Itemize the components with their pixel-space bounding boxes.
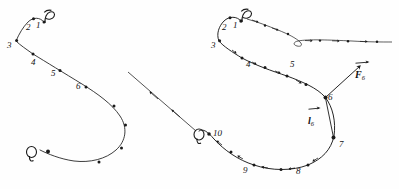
displacement-vector-subscript: 6 [311, 121, 314, 128]
left-curve-group [15, 10, 127, 163]
right-label-2: 2 [222, 23, 227, 32]
left-label-4: 4 [31, 58, 36, 67]
left-curve-path [16, 18, 125, 161]
right-label-9: 9 [243, 166, 248, 175]
right-label-5: 5 [290, 60, 295, 69]
right-top-wavy-line [247, 19, 392, 46]
middle-arrow-line [128, 72, 196, 131]
displacement-vector-overarrow-icon [308, 106, 314, 111]
force-vector-label: F6 [355, 64, 365, 82]
left-label-3: 3 [7, 41, 12, 50]
left-label-5: 5 [51, 69, 56, 78]
right-curve-dots [207, 16, 335, 171]
force-vector-subscript: 6 [362, 75, 365, 82]
displacement-vector-label: l6 [308, 110, 314, 128]
right-label-1: 1 [233, 21, 238, 30]
right-label-6: 6 [328, 93, 333, 102]
left-label-2: 2 [26, 23, 31, 32]
left-curve-dots [15, 17, 127, 163]
left-p-glyph [44, 10, 54, 23]
diagram-svg [0, 0, 399, 189]
diagram-canvas: 1 2 3 4 5 6 1 2 3 4 5 6 7 8 9 10 F6 l6 [0, 0, 399, 189]
force-vector-overarrow-icon [355, 60, 365, 65]
right-label-3: 3 [211, 41, 216, 50]
right-label-10: 10 [213, 129, 222, 138]
right-curve-group [194, 9, 392, 171]
force-vector-symbol: F [355, 70, 362, 80]
left-label-1: 1 [36, 21, 41, 30]
left-label-6: 6 [76, 82, 81, 91]
right-label-7: 7 [339, 140, 344, 149]
left-q-glyph [27, 147, 37, 161]
right-label-4: 4 [246, 60, 251, 69]
right-label-8: 8 [296, 167, 301, 176]
